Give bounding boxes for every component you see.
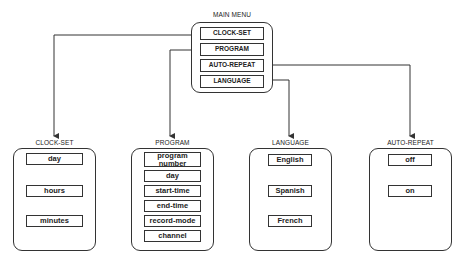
main-menu-title: MAIN MENU — [191, 11, 273, 18]
main-menu-item-language[interactable]: LANGUAGE — [200, 75, 264, 88]
program-item-record-mode[interactable]: record-mode — [144, 215, 201, 227]
program-item-end-time[interactable]: end-time — [144, 200, 201, 212]
main-menu-item-clock-set[interactable]: CLOCK-SET — [200, 27, 264, 40]
main-menu-item-auto-repeat[interactable]: AUTO-REPEAT — [200, 59, 264, 72]
language-title: LANGUAGE — [249, 139, 332, 146]
clock-set-item-hours[interactable]: hours — [26, 185, 83, 197]
auto-repeat-item-on[interactable]: on — [388, 185, 432, 197]
clock-set-item-minutes[interactable]: minutes — [26, 215, 83, 227]
connector-program — [170, 50, 192, 136]
language-item-spanish[interactable]: Spanish — [268, 185, 312, 197]
auto-repeat-title: AUTO-REPEAT — [369, 139, 452, 146]
language-item-english[interactable]: English — [268, 154, 312, 166]
clock-set-item-day[interactable]: day — [26, 153, 83, 165]
language-item-french[interactable]: French — [268, 215, 312, 227]
connector-language — [272, 80, 289, 136]
clock-set-title: CLOCK-SET — [13, 139, 96, 146]
program-title: PROGRAM — [131, 139, 214, 146]
program-item-program-number[interactable]: program number — [144, 152, 201, 167]
auto-repeat-item-off[interactable]: off — [388, 154, 432, 166]
main-menu-item-program[interactable]: PROGRAM — [200, 43, 264, 56]
program-item-day[interactable]: day — [144, 170, 201, 182]
program-item-channel[interactable]: channel — [144, 230, 201, 242]
program-item-start-time[interactable]: start-time — [144, 185, 201, 197]
connector-auto-repeat — [272, 65, 410, 136]
